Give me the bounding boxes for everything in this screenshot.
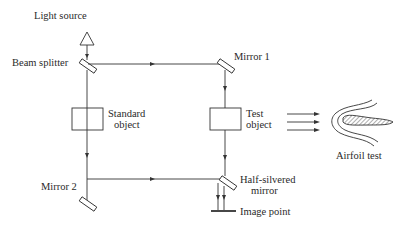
light-source-label: Light source bbox=[34, 10, 87, 21]
airflow-arrows-icon bbox=[287, 112, 320, 132]
test-object-label-2: object bbox=[246, 119, 272, 130]
image-point-label: Image point bbox=[240, 206, 291, 217]
standard-object-label-1: Standard bbox=[108, 108, 146, 119]
standard-object-label-2: object bbox=[114, 119, 140, 130]
mirror-1-icon bbox=[217, 59, 235, 73]
test-object-box bbox=[210, 108, 241, 130]
mirror-1-label: Mirror 1 bbox=[234, 51, 270, 62]
airfoil-icon bbox=[332, 100, 393, 146]
beam-splitter-label: Beam splitter bbox=[12, 57, 69, 68]
light-source-icon bbox=[80, 32, 94, 45]
half-silvered-label-2: mirror bbox=[251, 185, 278, 196]
interferometer-diagram: Light source Beam splitter Mirror 1 Stan… bbox=[0, 0, 410, 230]
standard-object-box bbox=[72, 108, 103, 130]
beam-splitter-icon bbox=[79, 59, 97, 73]
airfoil-test-label: Airfoil test bbox=[336, 150, 382, 161]
half-silvered-mirror-icon bbox=[219, 176, 237, 190]
test-object-label-1: Test bbox=[246, 108, 263, 119]
mirror-2-label: Mirror 2 bbox=[41, 181, 77, 192]
half-silvered-label-1: Half-silvered bbox=[240, 174, 296, 185]
mirror-2-icon bbox=[79, 197, 97, 211]
